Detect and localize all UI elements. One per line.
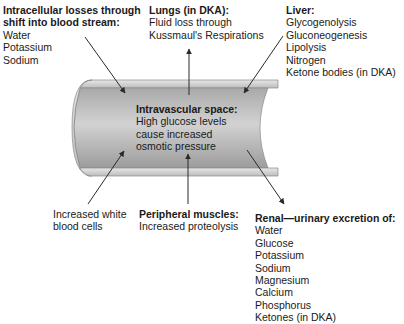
intravascular-label: Intravascular space: High glucose levels…	[136, 103, 238, 153]
wbc-item: Increased white	[53, 208, 127, 220]
intracellular-title-1: Intracellular losses through	[3, 4, 141, 16]
liver-item: Gluconeogenesis	[286, 29, 396, 41]
liver-title: Liver:	[286, 4, 396, 16]
intracellular-title-2: shift into blood stream:	[3, 16, 141, 28]
renal-item: Magnesium	[255, 274, 396, 286]
liver-item: Nitrogen	[286, 54, 396, 66]
renal-item: Glucose	[255, 237, 396, 249]
lungs-title: Lungs (in DKA):	[149, 4, 264, 16]
liver-item: Lipolysis	[286, 41, 396, 53]
intravascular-item: osmotic pressure	[136, 140, 238, 152]
muscles-item: Increased proteolysis	[139, 220, 239, 232]
wbc-item: blood cells	[53, 220, 127, 232]
renal-item: Potassium	[255, 249, 396, 261]
renal-item: Calcium	[255, 286, 396, 298]
renal-item: Ketones (in DKA)	[255, 311, 396, 323]
renal-item: Phosphorus	[255, 299, 396, 311]
liver-item: Glycogenolysis	[286, 16, 396, 28]
wbc-label: Increased white blood cells	[53, 208, 127, 233]
peripheral-muscles-label: Peripheral muscles: Increased proteolysi…	[139, 208, 239, 233]
intracellular-item: Potassium	[3, 41, 141, 53]
intracellular-losses-label: Intracellular losses through shift into …	[3, 4, 141, 66]
intracellular-item: Sodium	[3, 54, 141, 66]
lungs-item: Fluid loss through	[149, 16, 264, 28]
intravascular-title: Intravascular space:	[136, 103, 238, 115]
lungs-item: Kussmaul's Respirations	[149, 29, 264, 41]
muscles-title: Peripheral muscles:	[139, 208, 239, 220]
intracellular-item: Water	[3, 29, 141, 41]
renal-label: Renal—urinary excretion of: Water Glucos…	[255, 212, 396, 324]
lungs-label: Lungs (in DKA): Fluid loss through Kussm…	[149, 4, 264, 41]
renal-title: Renal—urinary excretion of:	[255, 212, 396, 224]
renal-item: Sodium	[255, 262, 396, 274]
intravascular-item: cause increased	[136, 128, 238, 140]
liver-item: Ketone bodies (in DKA)	[286, 66, 396, 78]
renal-item: Water	[255, 224, 396, 236]
liver-label: Liver: Glycogenolysis Gluconeogenesis Li…	[286, 4, 396, 78]
intravascular-item: High glucose levels	[136, 115, 238, 127]
arrow-renal	[247, 150, 284, 204]
